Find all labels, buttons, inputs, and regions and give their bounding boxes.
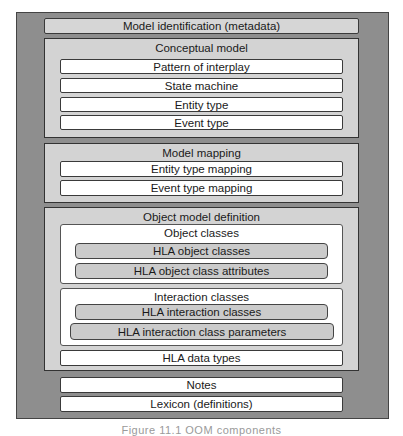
- object-model-definition-title: Object model definition: [143, 211, 260, 223]
- conceptual-model-title: Conceptual model: [155, 42, 248, 54]
- state-machine-box: State machine: [60, 78, 343, 93]
- entity-type-mapping-box: Entity type mapping: [60, 161, 343, 177]
- hla-data-types-label: HLA data types: [163, 352, 241, 364]
- model-identification-label: Model identification (metadata): [123, 20, 280, 32]
- figure-caption: Figure 11.1 OOM components: [0, 424, 403, 436]
- event-type-box: Event type: [60, 115, 343, 130]
- interaction-classes-title: Interaction classes: [154, 291, 249, 303]
- notes-box: Notes: [60, 377, 343, 393]
- lexicon-box: Lexicon (definitions): [60, 396, 343, 412]
- hla-object-class-attributes-label: HLA object class attributes: [134, 265, 270, 277]
- hla-object-classes-box: HLA object classes: [75, 243, 328, 259]
- pattern-of-interplay-box: Pattern of interplay: [60, 59, 343, 74]
- entity-type-mapping-label: Entity type mapping: [151, 163, 252, 175]
- pattern-of-interplay-label: Pattern of interplay: [153, 61, 250, 73]
- hla-interaction-classes-box: HLA interaction classes: [75, 304, 328, 320]
- event-type-label: Event type: [174, 117, 228, 129]
- event-type-mapping-box: Event type mapping: [60, 180, 343, 196]
- object-classes-title: Object classes: [164, 227, 239, 239]
- entity-type-box: Entity type: [60, 97, 343, 112]
- hla-data-types-box: HLA data types: [60, 350, 343, 366]
- hla-interaction-class-parameters-label: HLA interaction class parameters: [118, 326, 287, 338]
- entity-type-label: Entity type: [175, 99, 229, 111]
- model-identification-box: Model identification (metadata): [44, 18, 359, 34]
- event-type-mapping-label: Event type mapping: [151, 182, 253, 194]
- model-mapping-title: Model mapping: [162, 147, 241, 159]
- hla-object-classes-label: HLA object classes: [153, 245, 250, 257]
- hla-interaction-class-parameters-box: HLA interaction class parameters: [70, 323, 334, 340]
- notes-label: Notes: [186, 379, 216, 391]
- lexicon-label: Lexicon (definitions): [150, 398, 252, 410]
- state-machine-label: State machine: [165, 80, 239, 92]
- hla-object-class-attributes-box: HLA object class attributes: [75, 263, 328, 279]
- hla-interaction-classes-label: HLA interaction classes: [142, 306, 262, 318]
